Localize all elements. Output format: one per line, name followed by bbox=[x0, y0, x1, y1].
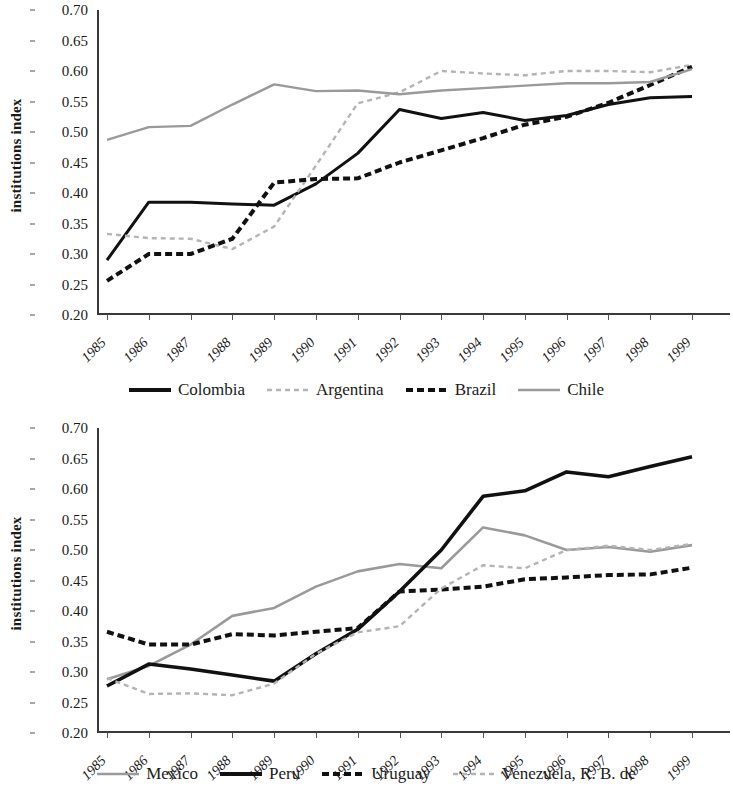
legend-swatch-icon bbox=[97, 768, 139, 780]
y-tick-label: 0.30 bbox=[62, 246, 88, 263]
series-line bbox=[107, 544, 692, 695]
x-tick-label: 1999 bbox=[663, 335, 694, 366]
y-tick-label: 0.60 bbox=[62, 63, 88, 80]
y-tick-mark bbox=[30, 733, 35, 734]
plot-area-top bbox=[97, 10, 712, 315]
y-tick-label: 0.50 bbox=[62, 124, 88, 141]
series-line bbox=[107, 67, 692, 281]
series-layer-top bbox=[97, 10, 712, 315]
figure-root: institutions index 0.700.650.600.550.500… bbox=[0, 0, 733, 797]
x-tick-label: 1992 bbox=[371, 335, 402, 366]
legend-item[interactable]: Argentina bbox=[267, 380, 384, 400]
x-tick-label: 1990 bbox=[287, 335, 318, 366]
y-tick-label: 0.25 bbox=[62, 276, 88, 293]
y-tick-mark bbox=[30, 162, 35, 163]
y-tick-mark bbox=[30, 254, 35, 255]
legend-label: Uruguay bbox=[371, 764, 430, 784]
x-tick-label: 1986 bbox=[120, 335, 151, 366]
x-tick-label: 1985 bbox=[78, 335, 109, 366]
legend-swatch-icon bbox=[453, 768, 495, 780]
x-tick-label: 1988 bbox=[204, 335, 235, 366]
y-tick-label: 0.50 bbox=[62, 542, 88, 559]
plot-area-bottom bbox=[97, 428, 712, 733]
legend-bottom: MexicoPeruUruguayVenezuela, R. B. de bbox=[0, 762, 733, 786]
y-tick-mark bbox=[30, 550, 35, 551]
x-tick-label: 1991 bbox=[329, 335, 360, 366]
y-tick-label: 0.65 bbox=[62, 450, 88, 467]
y-tick-mark bbox=[30, 284, 35, 285]
chart-panel-bottom: institutions index 0.700.650.600.550.500… bbox=[0, 400, 733, 797]
y-tick-mark bbox=[30, 315, 35, 316]
y-tick-mark bbox=[30, 71, 35, 72]
series-line bbox=[107, 527, 692, 679]
x-tick-label: 1994 bbox=[455, 335, 486, 366]
y-tick-label: 0.65 bbox=[62, 32, 88, 49]
x-tick-label: 1997 bbox=[580, 335, 611, 366]
y-tick-mark bbox=[30, 223, 35, 224]
y-tick-label: 0.35 bbox=[62, 633, 88, 650]
series-layer-bottom bbox=[97, 428, 712, 733]
series-line bbox=[107, 65, 692, 249]
y-tick-label: 0.45 bbox=[62, 154, 88, 171]
y-tick-mark bbox=[30, 193, 35, 194]
y-tick-mark bbox=[30, 428, 35, 429]
legend-item[interactable]: Uruguay bbox=[322, 764, 430, 784]
legend-label: Colombia bbox=[178, 380, 245, 400]
series-line bbox=[107, 97, 692, 260]
y-tick-label: 0.70 bbox=[62, 420, 88, 437]
x-tick-label: 1987 bbox=[162, 335, 193, 366]
y-tick-label: 0.60 bbox=[62, 481, 88, 498]
chart-panel-top: institutions index 0.700.650.600.550.500… bbox=[0, 0, 733, 400]
y-axis-title-bottom: institutions index bbox=[2, 418, 30, 728]
y-tick-label: 0.55 bbox=[62, 511, 88, 528]
y-tick-label: 0.40 bbox=[62, 603, 88, 620]
y-tick-mark bbox=[30, 611, 35, 612]
y-tick-mark bbox=[30, 580, 35, 581]
y-tick-label: 0.30 bbox=[62, 664, 88, 681]
y-tick-label: 0.70 bbox=[62, 2, 88, 19]
y-tick-label: 0.40 bbox=[62, 185, 88, 202]
y-tick-label: 0.45 bbox=[62, 572, 88, 589]
x-axis-labels-top: 1985198619871988198919901991199219931994… bbox=[97, 318, 712, 378]
y-tick-label: 0.35 bbox=[62, 215, 88, 232]
y-axis-ticks-top: 0.700.650.600.550.500.450.400.350.300.25… bbox=[30, 0, 92, 310]
y-tick-label: 0.25 bbox=[62, 694, 88, 711]
legend-item[interactable]: Peru bbox=[220, 764, 300, 784]
legend-item[interactable]: Colombia bbox=[129, 380, 245, 400]
legend-swatch-icon bbox=[518, 384, 560, 396]
y-tick-mark bbox=[30, 10, 35, 11]
legend-swatch-icon bbox=[406, 384, 448, 396]
y-tick-mark bbox=[30, 489, 35, 490]
series-line bbox=[107, 457, 692, 686]
legend-label: Peru bbox=[269, 764, 300, 784]
legend-item[interactable]: Venezuela, R. B. de bbox=[453, 764, 636, 784]
legend-top: ColombiaArgentinaBrazilChile bbox=[0, 378, 733, 402]
legend-swatch-icon bbox=[267, 384, 309, 396]
y-axis-ticks-bottom: 0.700.650.600.550.500.450.400.350.300.25… bbox=[30, 418, 92, 728]
y-tick-label: 0.55 bbox=[62, 93, 88, 110]
y-tick-mark bbox=[30, 641, 35, 642]
legend-swatch-icon bbox=[220, 768, 262, 780]
y-axis-title-top: institutions index bbox=[2, 0, 30, 310]
y-tick-mark bbox=[30, 40, 35, 41]
y-tick-label: 0.20 bbox=[62, 307, 88, 324]
legend-item[interactable]: Mexico bbox=[97, 764, 198, 784]
legend-label: Mexico bbox=[146, 764, 198, 784]
legend-item[interactable]: Brazil bbox=[406, 380, 497, 400]
x-tick-label: 1989 bbox=[246, 335, 277, 366]
y-tick-mark bbox=[30, 519, 35, 520]
legend-label: Brazil bbox=[455, 380, 497, 400]
y-tick-mark bbox=[30, 132, 35, 133]
x-tick-label: 1996 bbox=[538, 335, 569, 366]
y-tick-mark bbox=[30, 702, 35, 703]
legend-label: Chile bbox=[567, 380, 604, 400]
y-tick-mark bbox=[30, 672, 35, 673]
x-tick-label: 1998 bbox=[622, 335, 653, 366]
y-tick-label: 0.20 bbox=[62, 725, 88, 742]
legend-swatch-icon bbox=[129, 384, 171, 396]
x-tick-label: 1993 bbox=[413, 335, 444, 366]
legend-label: Venezuela, R. B. de bbox=[502, 764, 636, 784]
y-tick-mark bbox=[30, 458, 35, 459]
y-tick-mark bbox=[30, 101, 35, 102]
legend-item[interactable]: Chile bbox=[518, 380, 604, 400]
